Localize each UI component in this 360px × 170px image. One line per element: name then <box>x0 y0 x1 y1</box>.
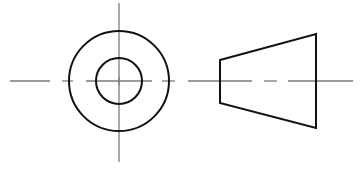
center-lines <box>10 3 353 162</box>
orthographic-drawing <box>0 0 360 170</box>
